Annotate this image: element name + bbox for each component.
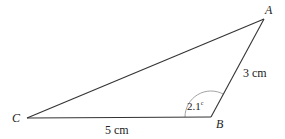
angle-value: 2.1 <box>187 100 201 112</box>
vertex-label-b: B <box>216 117 224 131</box>
vertex-label-c: C <box>12 111 21 125</box>
triangle-diagram: A B C 3 cm 5 cm 2.1c <box>0 0 285 139</box>
angle-unit: c <box>201 100 204 106</box>
side-label-ab: 3 cm <box>243 66 267 80</box>
angle-label-b: 2.1c <box>187 100 204 112</box>
side-ca <box>27 19 264 118</box>
vertex-label-a: A <box>264 3 273 17</box>
side-bc <box>27 117 211 118</box>
side-label-bc: 5 cm <box>105 123 129 137</box>
